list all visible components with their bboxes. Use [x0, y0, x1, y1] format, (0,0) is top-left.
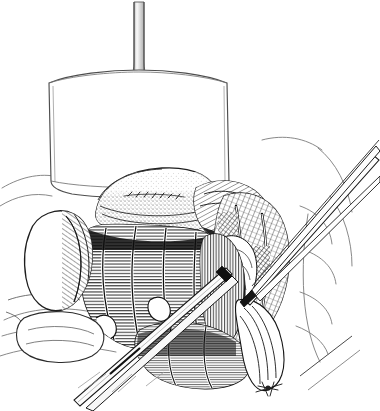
figure-caption: [14, 407, 374, 411]
illustration-canvas: [0, 0, 380, 411]
left-bowel-segment: [17, 312, 104, 363]
surgical-illustration: [0, 0, 380, 411]
